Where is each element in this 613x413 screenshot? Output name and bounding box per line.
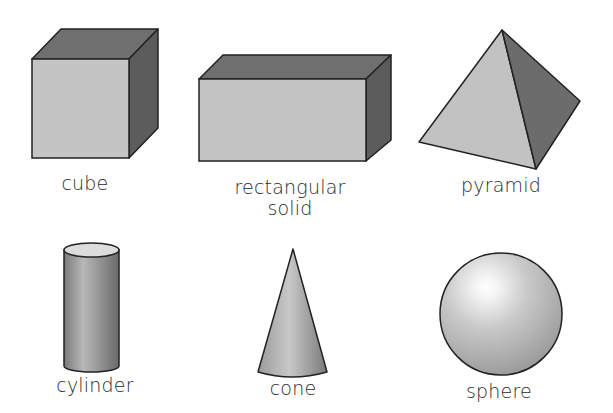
- sphere-shape: [440, 253, 562, 375]
- cylinder-shape: [64, 243, 119, 372]
- pyramid-shape: [419, 30, 580, 169]
- pyramid-label: pyramid: [451, 175, 551, 196]
- cone-label: cone: [253, 378, 333, 399]
- cylinder-label: cylinder: [45, 375, 145, 396]
- cube-label: cube: [45, 173, 125, 194]
- cube-shape: [32, 29, 158, 158]
- sphere-label: sphere: [449, 381, 549, 402]
- rectangular-solid-label-line1: rectangular: [230, 177, 350, 198]
- rectangular-solid-label-line2: solid: [230, 198, 350, 219]
- rectangular-solid-label: rectangular solid: [230, 177, 350, 219]
- cone-shape: [258, 249, 327, 377]
- rectangular-solid-shape: [199, 55, 391, 161]
